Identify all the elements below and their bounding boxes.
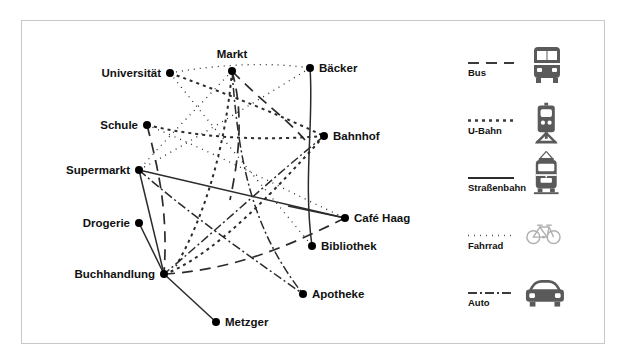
legend-label-bus: Bus <box>468 67 486 78</box>
edge-schule-buchhandlung <box>147 125 165 274</box>
edge-bahnhof-buchhandlung <box>170 136 324 272</box>
edge-universitaet-baecker <box>170 65 310 73</box>
node-drogerie[interactable]: Drogerie <box>83 217 143 229</box>
edge-buchhandlung-metzger <box>164 274 216 322</box>
tram-icon <box>534 151 559 194</box>
train-icon <box>535 103 558 144</box>
edge-baecker-bibliothek <box>308 68 312 246</box>
node-label-bibliothek: Bibliothek <box>321 240 377 252</box>
node-dot-supermarkt <box>135 166 143 174</box>
legend-label-ubahn: U-Bahn <box>468 125 502 136</box>
node-dot-markt <box>228 67 236 75</box>
edge-drogerie-buchhandlung <box>139 223 164 274</box>
node-markt[interactable]: Markt <box>217 48 248 75</box>
node-label-cafe_haag: Café Haag <box>354 212 410 224</box>
legend-label-strassenbahn: Straßenbahn <box>468 182 526 193</box>
node-dot-universitaet <box>166 69 174 77</box>
node-dot-drogerie <box>135 219 143 227</box>
node-cafe_haag[interactable]: Café Haag <box>341 212 410 224</box>
transport-network-figure: UniversitätMarktBäckerSchuleBahnhofSuper… <box>0 0 638 364</box>
edge-schule-bahnhof <box>147 125 324 138</box>
node-dot-schule <box>143 121 151 129</box>
node-label-buchhandlung: Buchhandlung <box>75 268 156 280</box>
node-dot-buchhandlung <box>160 270 168 278</box>
node-apotheke[interactable]: Apotheke <box>299 288 364 300</box>
legend-label-auto: Auto <box>468 297 490 308</box>
node-dot-metzger <box>212 318 220 326</box>
bicycle-icon <box>527 225 560 243</box>
edge-universitaet-bahnhof <box>170 73 324 136</box>
node-dot-bahnhof <box>320 132 328 140</box>
nodes-layer: UniversitätMarktBäckerSchuleBahnhofSuper… <box>66 48 410 328</box>
node-universitaet[interactable]: Universität <box>102 67 174 79</box>
legend-item-auto[interactable]: Auto <box>468 280 564 308</box>
legend-item-strassenbahn[interactable]: Straßenbahn <box>468 151 559 194</box>
node-supermarkt[interactable]: Supermarkt <box>66 164 143 176</box>
node-dot-bibliothek <box>308 242 316 250</box>
node-label-drogerie: Drogerie <box>83 217 130 229</box>
edge-universitaet-bibliothek <box>170 73 312 246</box>
node-label-apotheke: Apotheke <box>312 288 364 300</box>
node-baecker[interactable]: Bäcker <box>306 62 358 74</box>
node-label-schule: Schule <box>100 119 138 131</box>
edges-layer <box>139 65 345 322</box>
network-diagram-canvas: UniversitätMarktBäckerSchuleBahnhofSuper… <box>0 0 638 364</box>
edge-markt-buchhandlung <box>230 71 239 200</box>
node-schule[interactable]: Schule <box>100 119 151 131</box>
node-dot-baecker <box>306 64 314 72</box>
edge-schule-cafe_haag <box>147 125 345 218</box>
node-label-supermarkt: Supermarkt <box>66 164 130 176</box>
edge-cafe_haag-bahnhof <box>288 206 345 218</box>
legend-item-ubahn[interactable]: U-Bahn <box>468 103 558 144</box>
node-dot-cafe_haag <box>341 214 349 222</box>
node-label-metzger: Metzger <box>225 316 269 328</box>
edge-cafe_haag-buchhandlung <box>164 218 345 274</box>
legend-item-bus[interactable]: Bus <box>468 47 560 83</box>
edge-baecker-supermarkt <box>139 68 310 170</box>
bus-icon <box>534 47 560 83</box>
node-bahnhof[interactable]: Bahnhof <box>320 130 380 142</box>
legend-layer: BusU-BahnStraßenbahnFahrradAuto <box>468 47 564 308</box>
node-label-markt: Markt <box>217 48 248 60</box>
edge-markt-bahnhof <box>232 71 305 140</box>
node-bibliothek[interactable]: Bibliothek <box>308 240 377 252</box>
node-dot-apotheke <box>299 290 307 298</box>
node-label-universitaet: Universität <box>102 67 162 79</box>
edge-bahnhof-buchhandlung <box>164 136 324 274</box>
legend-item-fahrrad[interactable]: Fahrrad <box>468 225 560 250</box>
node-label-baecker: Bäcker <box>319 62 358 74</box>
car-icon <box>526 280 564 307</box>
node-buchhandlung[interactable]: Buchhandlung <box>75 268 169 280</box>
node-metzger[interactable]: Metzger <box>212 316 269 328</box>
legend-label-fahrrad: Fahrrad <box>468 240 504 251</box>
node-label-bahnhof: Bahnhof <box>333 130 380 142</box>
